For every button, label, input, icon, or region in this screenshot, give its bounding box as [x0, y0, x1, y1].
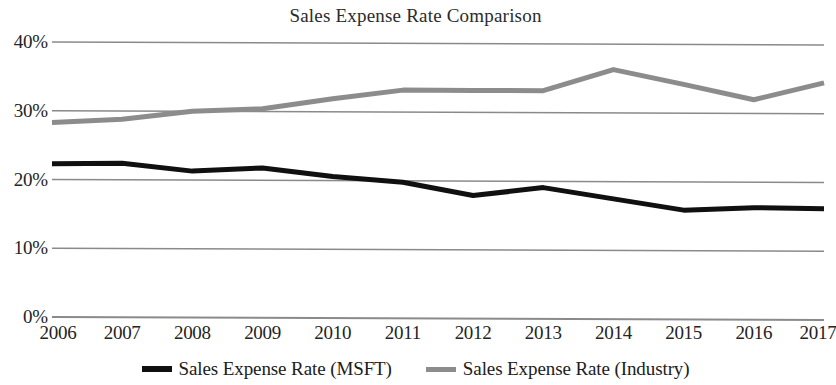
plot-area: [52, 42, 824, 317]
legend-label-msft: Sales Expense Rate (MSFT): [179, 358, 392, 380]
legend-swatch-icon: [426, 367, 456, 372]
x-tick-label: 2007: [104, 322, 141, 344]
x-tick-label: 2008: [174, 322, 211, 344]
y-tick-label: 30%: [14, 100, 48, 122]
x-tick-label: 2014: [595, 322, 632, 344]
y-tick-label: 20%: [14, 169, 48, 191]
x-tick-label: 2011: [385, 322, 421, 344]
legend-swatch-icon: [142, 366, 172, 372]
legend-label-industry: Sales Expense Rate (Industry): [463, 358, 690, 380]
x-tick-label: 2006: [40, 322, 77, 344]
gridline: [52, 317, 824, 320]
y-tick-label: 40%: [14, 31, 48, 53]
series-line-industry: [52, 70, 824, 123]
x-tick-label: 2012: [455, 322, 492, 344]
plot-svg: [52, 42, 824, 317]
series-line-msft: [52, 163, 824, 210]
x-tick-label: 2016: [735, 322, 772, 344]
gridline: [52, 42, 824, 45]
x-tick-label: 2017: [800, 322, 836, 344]
gridlines: [52, 42, 824, 320]
gridline: [52, 180, 824, 183]
x-tick-label: 2009: [244, 322, 281, 344]
legend-item-msft[interactable]: Sales Expense Rate (MSFT): [142, 358, 392, 380]
chart-title: Sales Expense Rate Comparison: [0, 5, 831, 27]
legend-item-industry[interactable]: Sales Expense Rate (Industry): [426, 358, 690, 380]
x-tick-label: 2013: [525, 322, 562, 344]
chart-legend: Sales Expense Rate (MSFT) Sales Expense …: [0, 356, 831, 382]
x-axis: 2006200720082009201020112012201320142015…: [52, 322, 824, 348]
x-tick-label: 2015: [665, 322, 702, 344]
gridline: [52, 248, 824, 251]
x-tick-label: 2010: [314, 322, 351, 344]
y-tick-label: 10%: [14, 237, 48, 259]
series-lines: [52, 70, 824, 211]
